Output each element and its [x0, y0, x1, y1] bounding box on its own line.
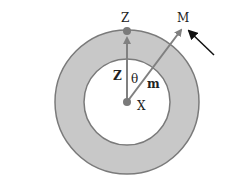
label-center: X — [137, 99, 146, 113]
label-vector-m: m — [147, 77, 160, 91]
annulus-diagram: Z M X Z θ m — [0, 0, 230, 185]
label-external-point: M — [177, 11, 189, 25]
label-top-point: Z — [121, 11, 129, 25]
pointer-arrow — [189, 31, 214, 55]
label-vector-z: Z — [113, 69, 122, 83]
center-point — [123, 98, 131, 106]
label-angle: θ — [131, 72, 138, 86]
point-z — [123, 27, 131, 35]
